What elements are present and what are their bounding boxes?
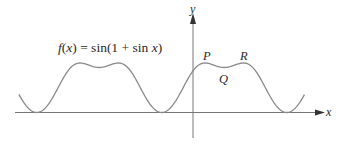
function-graph [0,0,345,149]
function-curve [19,63,305,113]
point-label-p: P [203,50,211,63]
function-formula-label: f(x) = sin(1 + sin x) [58,41,162,55]
y-axis-label: y [190,3,195,15]
formula-close: ) [158,40,163,55]
x-axis-label: x [326,106,331,118]
formula-rest: ) = sin(1 + sin [72,40,151,55]
point-label-q: Q [219,73,228,86]
point-label-r: R [240,50,248,63]
x-axis-arrow-icon [315,110,325,116]
